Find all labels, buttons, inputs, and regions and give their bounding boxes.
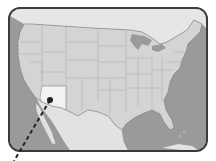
bahamas <box>179 135 181 137</box>
bahamas-2 <box>183 131 185 133</box>
us-map <box>10 9 208 152</box>
map-frame <box>8 7 208 152</box>
